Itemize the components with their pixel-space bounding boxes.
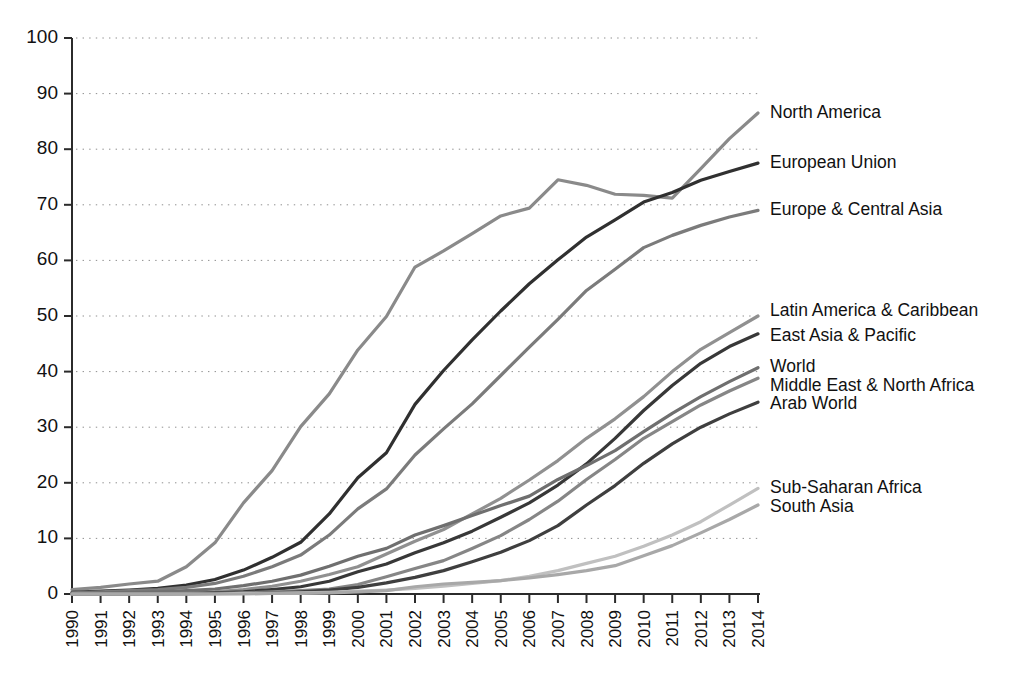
x-axis-tick-label: 2012 (692, 610, 711, 648)
series-label: Middle East & North Africa (770, 375, 975, 395)
y-axis-tick-label: 10 (37, 526, 58, 547)
x-axis-tick-label: 1996 (235, 610, 254, 648)
y-axis-tick-labels-group: 0102030405060708090100 (26, 26, 58, 603)
data-series-line (72, 378, 758, 594)
x-axis-tick-label: 2011 (663, 610, 682, 647)
x-axis-tick-label: 1991 (92, 610, 111, 648)
y-axis-tick-label: 80 (37, 137, 58, 158)
x-axis-tick-label: 1997 (263, 610, 282, 648)
x-axis-tick-label: 1994 (177, 610, 196, 648)
y-axis-tick-label: 40 (37, 360, 58, 381)
x-axis-tick-label: 2000 (349, 610, 368, 648)
y-axis-tick-label: 20 (37, 471, 58, 492)
x-axis-tick-label: 2014 (749, 610, 768, 648)
x-axis-tick-labels-group: 1990199119921993199419951996199719981999… (63, 610, 768, 648)
data-series-line (72, 163, 758, 592)
x-axis-tick-label: 1998 (292, 610, 311, 648)
x-axis-tick-label: 1992 (120, 610, 139, 648)
series-label: South Asia (770, 496, 854, 516)
x-axis-tick-label: 1995 (206, 610, 225, 648)
x-axis-tick-label: 2010 (635, 610, 654, 648)
series-label: Latin America & Caribbean (770, 300, 978, 320)
y-axis-tick-label: 60 (37, 248, 58, 269)
x-axis-tick-label: 2009 (606, 610, 625, 648)
x-axis-tick-label: 2013 (720, 610, 739, 648)
y-axis-tick-label: 100 (26, 26, 58, 47)
y-axis-tick-label: 30 (37, 415, 58, 436)
y-axis-tick-label: 70 (37, 193, 58, 214)
data-series-group (72, 113, 758, 594)
x-axis-tick-label: 2003 (435, 610, 454, 648)
series-labels-group: North AmericaEuropean UnionEurope & Cent… (770, 102, 978, 516)
series-label: Sub-Saharan Africa (770, 477, 922, 497)
y-axis-tick-label: 50 (37, 304, 58, 325)
x-axis-tick-label: 2002 (406, 610, 425, 648)
series-label: World (770, 356, 815, 376)
x-axis-tick-label: 2008 (578, 610, 597, 648)
x-axis-tick-label: 2001 (377, 610, 396, 648)
x-axis-tick-label: 2007 (549, 610, 568, 648)
series-label: Arab World (770, 393, 857, 413)
series-label: European Union (770, 152, 896, 172)
x-axis-tick-label: 1993 (149, 610, 168, 648)
x-axis-tick-label: 2004 (463, 610, 482, 648)
data-series-line (72, 505, 758, 594)
line-chart-figure: 0102030405060708090100 19901991199219931… (0, 0, 1022, 681)
chart-canvas: 0102030405060708090100 19901991199219931… (0, 0, 1022, 681)
y-axis-ticks-group (64, 38, 72, 594)
gridlines-group (76, 38, 760, 594)
data-series-line (72, 113, 758, 589)
series-label: East Asia & Pacific (770, 325, 916, 345)
x-axis-tick-label: 1990 (63, 610, 82, 648)
x-axis-tick-label: 2006 (520, 610, 539, 648)
x-axis-tick-label: 1999 (320, 610, 339, 648)
data-series-line (72, 334, 758, 594)
series-label: Europe & Central Asia (770, 199, 942, 219)
x-axis-tick-label: 2005 (492, 610, 511, 648)
y-axis-tick-label: 0 (47, 582, 58, 603)
series-label: North America (770, 102, 881, 122)
y-axis-tick-label: 90 (37, 82, 58, 103)
